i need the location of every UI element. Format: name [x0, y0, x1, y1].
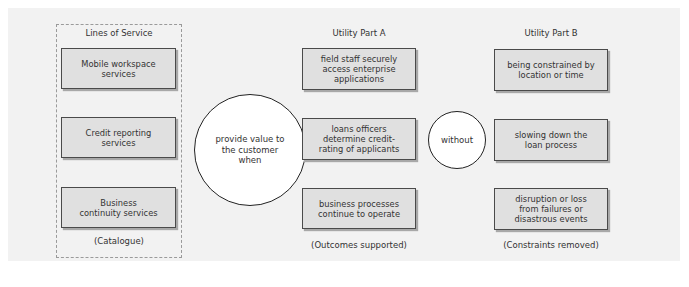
outcomes-supported-caption: (Outcomes supported) — [296, 240, 422, 250]
provide-value-circle: provide value to the customer when — [194, 94, 306, 206]
lines-of-service-heading: Lines of Service — [56, 28, 182, 38]
without-circle: without — [428, 111, 486, 169]
outcome-box-loans-officers: loans officers determine credit- rating … — [302, 118, 416, 160]
constraint-box-slowing-loan: slowing down the loan process — [494, 119, 608, 161]
service-box-credit-reporting: Credit reporting services — [61, 117, 176, 158]
service-box-business-continuity: Business continuity services — [61, 187, 176, 228]
catalogue-caption: (Catalogue) — [56, 236, 182, 246]
constraint-box-disruption-loss: disruption or loss from failures or disa… — [494, 188, 608, 230]
utility-part-a-heading: Utility Part A — [302, 28, 416, 38]
utility-part-b-heading: Utility Part B — [494, 28, 608, 38]
outcome-box-business-processes: business processes continue to operate — [302, 188, 416, 229]
constraints-removed-caption: (Constraints removed) — [486, 240, 616, 250]
outcome-box-field-staff: field staff securely access enterprise a… — [302, 48, 416, 90]
constraint-box-location-time: being constrained by location or time — [494, 49, 608, 91]
service-box-mobile-workspace: Mobile workspace services — [61, 48, 176, 89]
